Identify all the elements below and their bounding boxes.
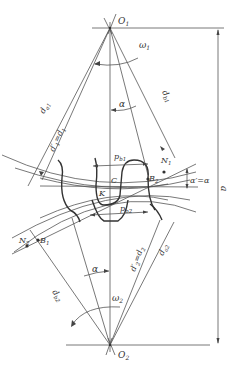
label-o2: O2: [118, 350, 129, 361]
label-c: C: [111, 176, 117, 185]
point-o2: [109, 344, 111, 346]
point-o1: [109, 27, 111, 29]
db1-arrow-icon: [160, 146, 165, 151]
alpha-prime-dimension: [186, 168, 189, 189]
gear-meshing-diagram: a: [0, 0, 229, 366]
alpha-top-arrow-icon: [111, 108, 116, 112]
center-distance-label: a: [219, 186, 229, 191]
label-pb2: pb2: [120, 204, 133, 214]
pb1-dimension: [93, 163, 148, 168]
label-n1: N1: [160, 156, 172, 166]
label-da1: da1: [38, 100, 52, 115]
label-d1: d′1=d1: [48, 126, 68, 154]
alpha-bottom-arrow-icon: [104, 269, 109, 273]
label-da2: da2: [157, 242, 171, 257]
label-b2: B2: [148, 174, 159, 184]
label-alpha-bottom: α: [92, 264, 98, 274]
label-pb1: pb1: [114, 152, 126, 162]
label-db2: db2: [50, 288, 65, 304]
label-db1: db1: [159, 89, 174, 104]
omega2-arc: [72, 307, 120, 325]
omega1-arc: [95, 58, 138, 65]
label-alpha-prime-eq: α′=α: [190, 176, 210, 185]
label-alpha-top: α: [119, 99, 125, 109]
label-b1: B1: [39, 236, 49, 246]
label-omega2: ω2: [112, 293, 123, 304]
label-k: K: [98, 189, 106, 198]
point-n1: [162, 170, 165, 173]
pitch-tangent-line: [40, 186, 198, 187]
label-n2: N2: [18, 236, 30, 246]
label-o1: O1: [118, 16, 129, 27]
label-omega1: ω1: [139, 40, 150, 51]
lower-gear-rays: [30, 218, 174, 345]
